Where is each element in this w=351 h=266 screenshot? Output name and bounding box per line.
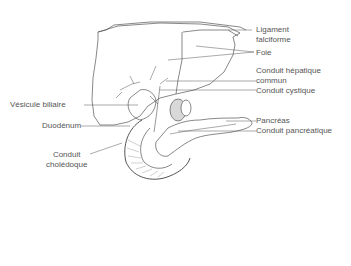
label-duodenum: Duodénum xyxy=(42,121,81,131)
label-foie: Foie xyxy=(256,48,272,58)
gallbladder-outline xyxy=(128,89,156,120)
label-conduit-hepatique-commun: Conduit hépatique commun xyxy=(256,66,321,86)
duodenum-outline xyxy=(125,120,190,179)
liver-outline xyxy=(92,23,240,125)
label-pancreas: Pancréas xyxy=(256,116,290,126)
label-conduit-pancreatique: Conduit pancréatique xyxy=(256,126,332,136)
pancreas-outline xyxy=(156,117,252,156)
label-vesicule-biliaire: Vésicule biliaire xyxy=(10,100,66,110)
label-conduit-choledoque: Conduit cholédoque xyxy=(46,150,87,170)
label-conduit-cystique: Conduit cystique xyxy=(256,86,315,96)
label-ligament-falciforme: Ligament falciforme xyxy=(256,25,291,45)
